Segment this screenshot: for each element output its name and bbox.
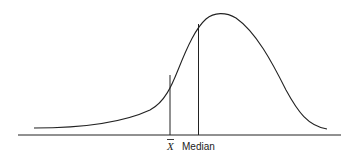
mean-label: X [166, 140, 175, 152]
skewed-distribution-diagram: X Median [0, 0, 356, 162]
distribution-curve [34, 14, 327, 129]
median-label: Median [182, 141, 215, 152]
